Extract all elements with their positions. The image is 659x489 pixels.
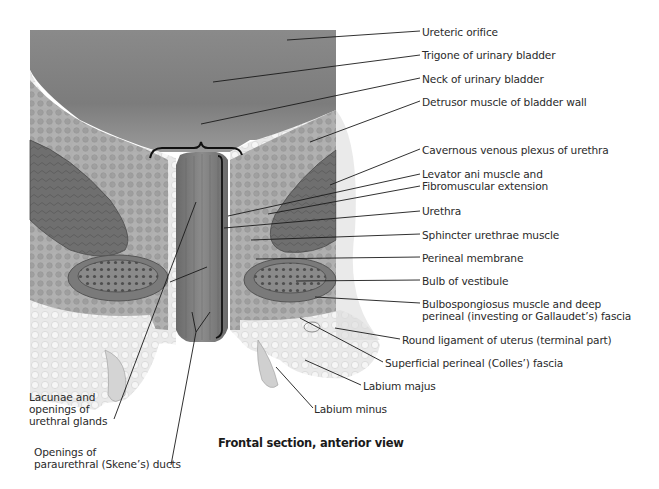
label-detrusor-muscle: Detrusor muscle of bladder wall: [422, 96, 587, 108]
label-labium-majus: Labium majus: [363, 380, 436, 392]
label-urethra: Urethra: [422, 205, 461, 217]
label-round-ligament-of-uterus: Round ligament of uterus (terminal part): [402, 334, 612, 346]
label-neck-of-urinary-bladder: Neck of urinary bladder: [422, 73, 544, 85]
label-superficial-perineal-fascia: Superficial perineal (Colles’) fascia: [385, 357, 563, 369]
label-fibromuscular-extension: Fibromuscular extension: [422, 180, 548, 192]
anatomy-figure: Ureteric orifice Trigone of urinary blad…: [0, 0, 659, 489]
label-cavernous-venous-plexus: Cavernous venous plexus of urethra: [422, 144, 609, 156]
label-bulb-of-vestibule: Bulb of vestibule: [422, 275, 508, 287]
label-labium-minus: Labium minus: [314, 403, 387, 415]
figure-caption: Frontal section, anterior view: [218, 436, 404, 450]
label-lacunae-urethral-glands: Lacunae and openings of urethral glands: [29, 391, 107, 427]
label-ureteric-orifice: Ureteric orifice: [422, 26, 498, 38]
label-sphincter-urethrae-muscle: Sphincter urethrae muscle: [422, 229, 559, 241]
label-bulbospongiosus-muscle: Bulbospongiosus muscle and deep perineal…: [422, 298, 631, 322]
label-paraurethral-ducts: Openings of paraurethral (Skene’s) ducts: [34, 446, 181, 470]
label-trigone-of-urinary-bladder: Trigone of urinary bladder: [422, 49, 555, 61]
label-levator-ani-muscle: Levator ani muscle and: [422, 168, 543, 180]
label-perineal-membrane: Perineal membrane: [422, 252, 523, 264]
